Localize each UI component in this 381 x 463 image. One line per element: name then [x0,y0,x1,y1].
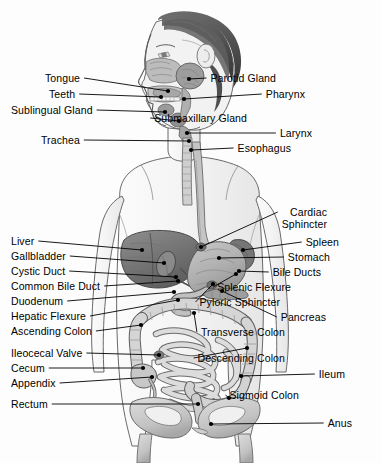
label-parotid-gland-line1: Parotid Gland [210,72,276,84]
digestive-system-figure: TongueTeethSublingual GlandTracheaLiverG… [0,0,381,463]
label-common-bile-duct: Common Bile Duct [11,280,100,292]
label-teeth: Teeth [49,88,75,100]
label-ascending-colon: Ascending Colon [11,325,92,337]
label-liver: Liver [11,235,34,247]
label-pharynx-line1: Pharynx [266,88,305,100]
label-splenic-flexure-line1: Splenic Flexure [217,281,291,293]
label-parotid-gland: Parotid Gland [210,72,276,84]
label-cardiac-sphincter-line2: Sphincter [282,218,327,230]
label-esophagus: Esophagus [238,142,291,154]
label-pharynx: Pharynx [266,88,305,100]
label-sigmoid-colon-line1: Sigmoid Colon [229,389,299,401]
label-spleen-line1: Spleen [306,236,339,248]
label-descending-colon-line1: Descending Colon [198,352,285,364]
label-ileocecal-valve: Ileocecal Valve [11,347,82,359]
label-pancreas: Pancreas [281,311,326,323]
label-sublingual-gland: Sublingual Gland [11,104,93,116]
label-cardiac-sphincter: CardiacSphincter [282,206,327,230]
anatomy-illustration [0,0,381,463]
label-cystic-duct: Cystic Duct [11,265,65,277]
label-larynx-line1: Larynx [280,127,312,139]
label-anus-line1: Anus [328,417,352,429]
label-ileum-line1: Ileum [319,368,345,380]
label-tongue: Tongue [45,72,80,84]
label-stomach: Stomach [288,251,330,263]
label-spleen: Spleen [306,236,339,248]
label-gallbladder: Gallbladder [11,250,66,262]
label-descending-colon: Descending Colon [198,352,285,364]
label-ileum: Ileum [319,368,345,380]
label-anus: Anus [328,417,352,429]
label-bile-ducts-line1: Bile Ducts [273,266,321,278]
label-trachea: Trachea [41,134,80,146]
label-bile-ducts: Bile Ducts [273,266,321,278]
label-duodenum: Duodenum [11,295,63,307]
label-sigmoid-colon: Sigmoid Colon [229,389,299,401]
label-cecum: Cecum [11,362,45,374]
label-pancreas-line1: Pancreas [281,311,326,323]
label-esophagus-line1: Esophagus [238,142,291,154]
label-cardiac-sphincter-line1: Cardiac [290,206,327,218]
label-splenic-flexure: Splenic Flexure [217,281,291,293]
label-pyloric-sphincter: Pyloric Sphincter [200,296,280,308]
label-submaxillary-gland: Submaxillary Gland [154,112,247,124]
label-transverse-colon: Transverse Colon [201,326,285,338]
label-appendix: Appendix [11,377,56,389]
label-transverse-colon-line1: Transverse Colon [201,326,285,338]
label-stomach-line1: Stomach [288,251,330,263]
label-submaxillary-gland-line1: Submaxillary Gland [154,112,247,124]
label-larynx: Larynx [280,127,312,139]
label-pyloric-sphincter-line1: Pyloric Sphincter [200,296,280,308]
label-rectum: Rectum [11,398,48,410]
label-hepatic-flexure: Hepatic Flexure [11,310,86,322]
